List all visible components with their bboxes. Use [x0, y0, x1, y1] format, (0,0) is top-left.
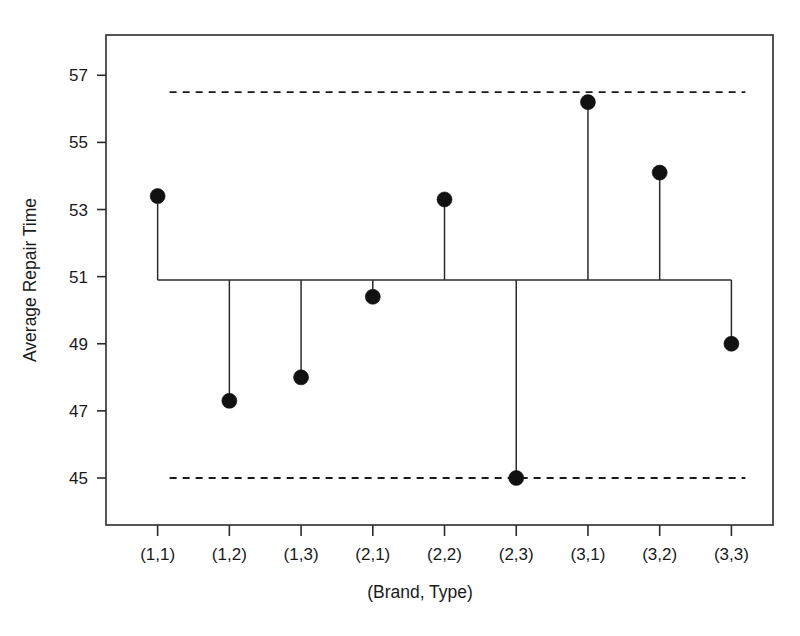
y-tick-label: 49 [69, 335, 88, 354]
decision-limit-lines [170, 92, 746, 478]
data-point [437, 192, 452, 207]
data-point [365, 289, 380, 304]
x-tick-label: (3,3) [714, 545, 749, 564]
y-axis-ticks: 45474951535557 [69, 66, 106, 488]
y-tick-label: 47 [69, 402, 88, 421]
x-tick-label: (2,3) [499, 545, 534, 564]
y-tick-label: 45 [69, 469, 88, 488]
data-point [724, 336, 739, 351]
chart-canvas: 45474951535557 (1,1)(1,2)(1,3)(2,1)(2,2)… [0, 0, 800, 636]
x-tick-label: (3,2) [642, 545, 677, 564]
y-tick-label: 53 [69, 201, 88, 220]
x-tick-label: (1,2) [212, 545, 247, 564]
data-point [509, 471, 524, 486]
data-point [294, 370, 309, 385]
data-series [150, 95, 739, 486]
y-axis-title: Average Repair Time [20, 198, 40, 362]
x-tick-label: (1,1) [140, 545, 175, 564]
y-tick-label: 57 [69, 66, 88, 85]
data-point [652, 165, 667, 180]
x-axis-title: (Brand, Type) [367, 582, 473, 602]
data-point [150, 189, 165, 204]
x-tick-label: (3,1) [570, 545, 605, 564]
x-tick-label: (2,2) [427, 545, 462, 564]
y-tick-label: 51 [69, 268, 88, 287]
data-point [580, 95, 595, 110]
data-point [222, 393, 237, 408]
x-tick-label: (1,3) [284, 545, 319, 564]
anom-chart: 45474951535557 (1,1)(1,2)(1,3)(2,1)(2,2)… [0, 0, 800, 636]
y-tick-label: 55 [69, 133, 88, 152]
x-axis-ticks: (1,1)(1,2)(1,3)(2,1)(2,2)(2,3)(3,1)(3,2)… [140, 525, 749, 564]
x-tick-label: (2,1) [355, 545, 390, 564]
